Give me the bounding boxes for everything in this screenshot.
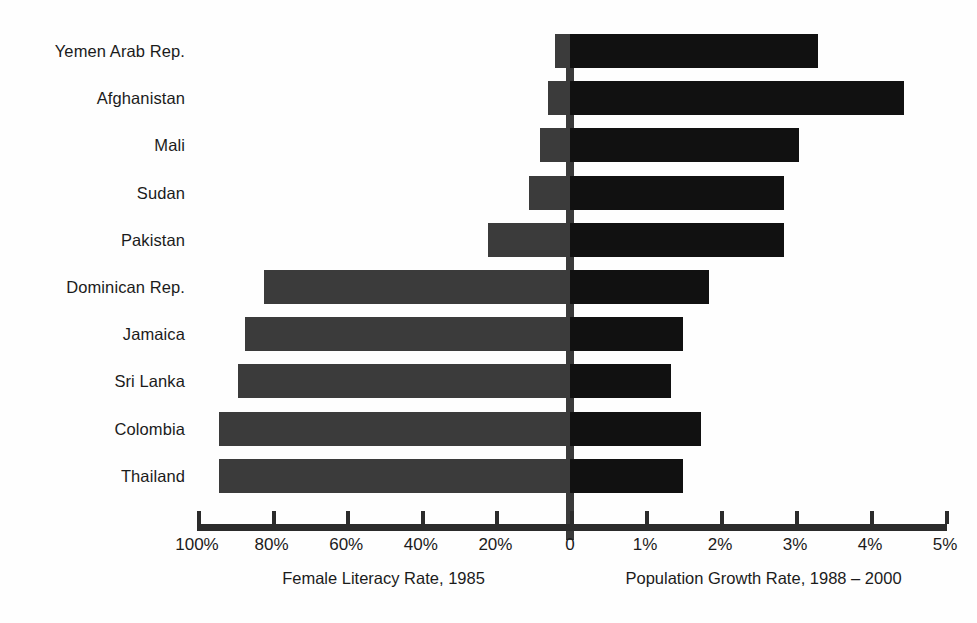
bar-female-literacy bbox=[238, 364, 570, 398]
x-axis bbox=[197, 524, 947, 531]
x-tick-label-left: 60% bbox=[329, 536, 363, 553]
bar-row bbox=[0, 223, 977, 257]
x-tick-label-left: 20% bbox=[478, 536, 512, 553]
bar-female-literacy bbox=[529, 176, 570, 210]
x-tick-right bbox=[795, 511, 799, 524]
x-tick-label-right: 5% bbox=[933, 536, 958, 553]
x-tick-left bbox=[272, 511, 276, 524]
plot-area bbox=[0, 30, 977, 500]
bar-row bbox=[0, 128, 977, 162]
bar-row bbox=[0, 81, 977, 115]
bar-female-literacy bbox=[264, 270, 570, 304]
chart-figure: Yemen Arab Rep.AfghanistanMaliSudanPakis… bbox=[0, 0, 977, 623]
x-tick-left bbox=[421, 511, 425, 524]
x-tick-right bbox=[720, 511, 724, 524]
bar-population-growth bbox=[570, 317, 683, 351]
bar-population-growth bbox=[570, 81, 904, 115]
bar-female-literacy bbox=[555, 34, 570, 68]
bar-population-growth bbox=[570, 176, 784, 210]
bar-row bbox=[0, 176, 977, 210]
bar-population-growth bbox=[570, 270, 709, 304]
x-tick-right bbox=[870, 511, 874, 524]
x-tick-right bbox=[645, 511, 649, 524]
x-tick-label-right: 1% bbox=[633, 536, 658, 553]
x-tick-label-right: 0 bbox=[565, 536, 574, 553]
x-tick-left bbox=[495, 511, 499, 524]
bar-female-literacy bbox=[540, 128, 570, 162]
bar-female-literacy bbox=[488, 223, 570, 257]
bar-row bbox=[0, 270, 977, 304]
x-tick-label-right: 4% bbox=[858, 536, 883, 553]
bar-row bbox=[0, 459, 977, 493]
bar-population-growth bbox=[570, 128, 799, 162]
bar-population-growth bbox=[570, 364, 671, 398]
bar-population-growth bbox=[570, 412, 701, 446]
bar-female-literacy bbox=[245, 317, 570, 351]
bar-population-growth bbox=[570, 223, 784, 257]
x-tick-label-right: 3% bbox=[783, 536, 808, 553]
x-tick-label-right: 2% bbox=[708, 536, 733, 553]
bar-row bbox=[0, 34, 977, 68]
bar-female-literacy bbox=[219, 412, 570, 446]
x-tick-right bbox=[570, 511, 574, 524]
x-tick-left bbox=[346, 511, 350, 524]
x-tick-left bbox=[197, 511, 201, 524]
bar-population-growth bbox=[570, 34, 818, 68]
x-tick-right bbox=[945, 511, 949, 524]
bar-row bbox=[0, 412, 977, 446]
x-tick-label-left: 40% bbox=[404, 536, 438, 553]
x-tick-label-left: 100% bbox=[175, 536, 218, 553]
bar-population-growth bbox=[570, 459, 683, 493]
bar-female-literacy bbox=[219, 459, 570, 493]
bar-row bbox=[0, 364, 977, 398]
right-axis-caption: Population Growth Rate, 1988 – 2000 bbox=[625, 570, 901, 587]
bar-row bbox=[0, 317, 977, 351]
left-axis-caption: Female Literacy Rate, 1985 bbox=[282, 570, 485, 587]
bar-female-literacy bbox=[548, 81, 570, 115]
x-tick-label-left: 80% bbox=[255, 536, 289, 553]
